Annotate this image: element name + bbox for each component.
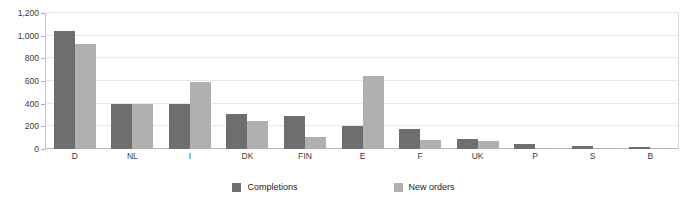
bar-groups xyxy=(46,13,679,149)
bar-group xyxy=(276,13,334,149)
x-axis-label-d: D xyxy=(46,151,104,161)
x-axis-label-i: I xyxy=(161,151,219,161)
bar-i-new-orders[interactable] xyxy=(190,82,211,149)
bar-fin-completions[interactable] xyxy=(284,116,305,149)
bar-p-completions[interactable] xyxy=(514,144,535,149)
bar-nl-new-orders[interactable] xyxy=(132,104,153,149)
bar-dk-new-orders[interactable] xyxy=(247,121,268,149)
y-axis-tick-label: 0 xyxy=(0,144,39,154)
bar-e-completions[interactable] xyxy=(342,126,363,149)
y-axis-tick-mark xyxy=(41,149,45,150)
x-axis-label-nl: NL xyxy=(104,151,162,161)
bar-f-new-orders[interactable] xyxy=(420,140,441,149)
y-axis-tick-label: 600 xyxy=(0,76,39,86)
y-axis-tick-mark xyxy=(41,36,45,37)
bar-uk-new-orders[interactable] xyxy=(478,141,499,150)
x-axis-label-dk: DK xyxy=(219,151,277,161)
bar-e-new-orders[interactable] xyxy=(363,76,384,149)
bar-group xyxy=(334,13,392,149)
bar-b-new-orders[interactable] xyxy=(650,148,671,149)
legend-swatch-icon xyxy=(394,183,403,192)
bar-i-completions[interactable] xyxy=(169,104,190,149)
bar-d-new-orders[interactable] xyxy=(75,44,96,149)
bar-group xyxy=(564,13,622,149)
legend-label: Completions xyxy=(247,182,297,192)
bar-group xyxy=(506,13,564,149)
y-axis-tick-mark xyxy=(41,13,45,14)
bar-f-completions[interactable] xyxy=(399,129,420,149)
x-axis-label-b: B xyxy=(621,151,679,161)
x-axis-label-uk: UK xyxy=(449,151,507,161)
bar-fin-new-orders[interactable] xyxy=(305,137,326,149)
bar-s-completions[interactable] xyxy=(572,146,593,149)
bar-nl-completions[interactable] xyxy=(111,104,132,149)
chart-legend: CompletionsNew orders xyxy=(0,182,687,192)
bar-group xyxy=(621,13,679,149)
bar-group xyxy=(46,13,104,149)
x-axis-label-fin: FIN xyxy=(276,151,334,161)
bar-group xyxy=(449,13,507,149)
legend-swatch-icon xyxy=(232,183,241,192)
bar-s-new-orders[interactable] xyxy=(593,148,614,149)
x-axis-label-f: F xyxy=(391,151,449,161)
bar-d-completions[interactable] xyxy=(54,31,75,149)
bar-p-new-orders[interactable] xyxy=(535,148,556,149)
y-axis-tick-mark xyxy=(41,104,45,105)
y-axis-tick-mark xyxy=(41,126,45,127)
y-axis-tick-mark xyxy=(41,81,45,82)
y-axis-tick-label: 200 xyxy=(0,121,39,131)
bar-b-completions[interactable] xyxy=(629,147,650,149)
bar-group xyxy=(219,13,277,149)
x-axis-labels: DNLIDKFINEFUKPSB xyxy=(46,151,679,161)
y-axis-tick-label: 400 xyxy=(0,99,39,109)
y-axis-tick-label: 1,000 xyxy=(0,31,39,41)
y-axis-tick-label: 1,200 xyxy=(0,8,39,18)
x-axis-label-e: E xyxy=(334,151,392,161)
legend-item-completions[interactable]: Completions xyxy=(232,182,297,192)
x-axis-label-s: S xyxy=(564,151,622,161)
legend-item-new-orders[interactable]: New orders xyxy=(394,182,455,192)
bar-group xyxy=(391,13,449,149)
x-axis-label-p: P xyxy=(506,151,564,161)
y-axis-tick-mark xyxy=(41,58,45,59)
y-axis-tick-label: 800 xyxy=(0,53,39,63)
bar-dk-completions[interactable] xyxy=(226,114,247,149)
bar-chart: 02004006008001,0001,200 DNLIDKFINEFUKPSB… xyxy=(0,0,687,209)
bar-uk-completions[interactable] xyxy=(457,139,478,149)
bar-group xyxy=(161,13,219,149)
legend-label: New orders xyxy=(409,182,455,192)
bar-group xyxy=(104,13,162,149)
